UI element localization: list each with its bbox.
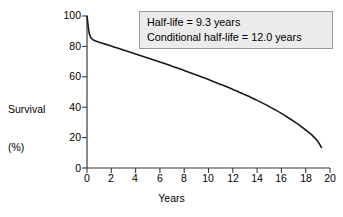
y-tick-marks bbox=[82, 16, 87, 168]
survival-curve-line bbox=[87, 16, 322, 147]
survival-curve-figure: Survival (%) Years Half-life = 9.3 years… bbox=[0, 0, 343, 217]
plot-area bbox=[0, 0, 343, 217]
x-tick-marks bbox=[87, 168, 330, 173]
